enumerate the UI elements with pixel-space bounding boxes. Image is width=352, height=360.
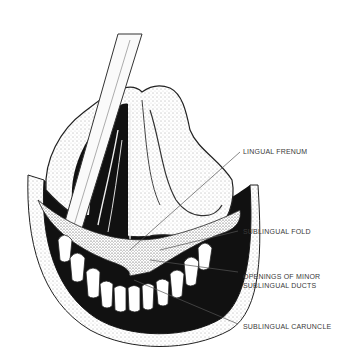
- label-sublingual-caruncle: SUBLINGUAL CARUNCLE: [243, 322, 331, 331]
- label-text: LINGUAL FRENUM: [243, 148, 307, 155]
- label-text: SUBLINGUAL CARUNCLE: [243, 323, 331, 330]
- label-openings-minor-sublingual-ducts: OPENINGS OF MINOR SUBLINGUAL DUCTS: [243, 272, 320, 290]
- label-text-line-1: OPENINGS OF MINOR: [243, 272, 320, 281]
- mouth-anatomy-illustration: [0, 0, 352, 360]
- label-sublingual-fold: SUBLINGUAL FOLD: [243, 227, 311, 236]
- label-text-line-2: SUBLINGUAL DUCTS: [243, 281, 320, 290]
- sublingual-caruncle-mark: [125, 278, 135, 286]
- label-lingual-frenum: LINGUAL FRENUM: [243, 147, 307, 156]
- label-text: SUBLINGUAL FOLD: [243, 228, 311, 235]
